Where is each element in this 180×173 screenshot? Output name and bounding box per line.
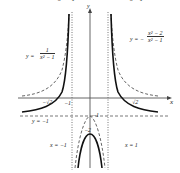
asymptote-x-neg1-label: x = −1 xyxy=(50,142,67,148)
curve-g-numerator: x² − 2 xyxy=(147,30,164,37)
curve-f-right xyxy=(111,14,158,96)
curve-f-lhs: y = xyxy=(26,53,34,59)
curve-g-denominator: x² − 1 xyxy=(147,37,164,43)
tick-neg1-right: −1 xyxy=(92,112,99,118)
curve-g-right xyxy=(111,14,158,112)
tick-neg-sqrt2: −√2 xyxy=(42,99,52,105)
x-axis-label: x xyxy=(170,99,173,106)
curve-f-denominator: x² − 1 xyxy=(40,54,55,60)
tick-pos-sqrt2: √2 xyxy=(132,99,138,105)
asymptote-y-label: y = −1 xyxy=(32,118,49,124)
top-cut-label-right: x = 1 xyxy=(130,0,143,2)
curve-g-left xyxy=(22,14,69,112)
asymptote-x-1-label: x = 1 xyxy=(125,142,138,148)
graph-canvas xyxy=(0,0,180,173)
curve-g-fraction: x² − 2 x² − 1 xyxy=(147,30,164,43)
curve-f-numerator: 1 xyxy=(40,47,55,54)
tick-neg2: −2 xyxy=(84,127,91,133)
curve-g-lhs: y = − xyxy=(130,36,144,42)
tick-neg1-left: −1 xyxy=(64,100,71,106)
y-axis-label: y xyxy=(87,3,90,9)
graph-figure: x y y = 1 x² − 1 y = − x² − 2 x² − 1 −√2… xyxy=(0,0,180,173)
top-cut-label-left: x = −1 xyxy=(58,0,75,2)
curve-f-fraction: 1 x² − 1 xyxy=(40,47,55,60)
